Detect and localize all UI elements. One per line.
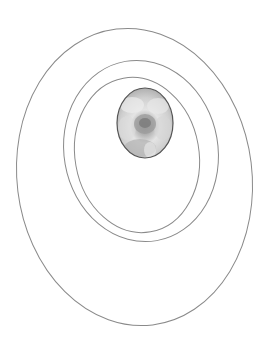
concentric-ellipse-graphic	[0, 0, 264, 346]
flower-photo	[110, 85, 180, 165]
outer-ring	[0, 15, 264, 339]
